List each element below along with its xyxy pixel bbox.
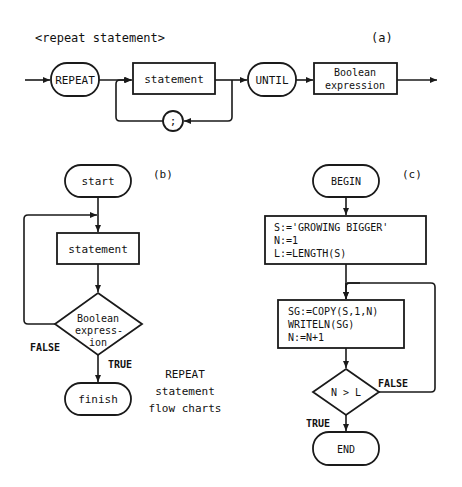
repeat-statement-diagram: <repeat statement> (a) REPEAT statement … — [0, 0, 462, 487]
panel-a-label: (a) — [371, 31, 393, 45]
statement-label: statement — [144, 73, 204, 86]
semicolon-label: ; — [170, 115, 177, 128]
body-line3: N:=N+1 — [288, 332, 324, 343]
false-label: FALSE — [30, 342, 60, 353]
repeat-keyword-node: REPEAT — [51, 63, 99, 96]
body-line2: WRITELN(SG) — [288, 319, 354, 330]
until-keyword-label: UNTIL — [255, 74, 288, 87]
true-label: TRUE — [306, 418, 330, 429]
end-label: END — [337, 444, 355, 455]
init-line2: N:=1 — [274, 235, 298, 246]
start-node: start — [65, 165, 131, 197]
init-line3: L:=LENGTH(S) — [274, 248, 346, 259]
decision-label: N > L — [331, 387, 361, 398]
decision-node: N > L — [313, 369, 379, 415]
statement-node: statement — [57, 233, 139, 264]
statement-label: statement — [68, 243, 128, 256]
panel-b-label: (b) — [153, 168, 173, 181]
panel-c-flowchart: (c) BEGIN S:='GROWING BIGGER' N:=1 L:=LE… — [265, 165, 435, 465]
false-label: FALSE — [378, 378, 408, 389]
caption-line3: flow charts — [149, 402, 222, 415]
statement-node: statement — [133, 63, 215, 94]
true-label: TRUE — [108, 359, 132, 370]
init-line1: S:='GROWING BIGGER' — [274, 222, 388, 233]
finish-label: finish — [78, 393, 118, 406]
end-node: END — [313, 432, 379, 465]
finish-node: finish — [65, 383, 131, 415]
boolean-label-line2: expression — [325, 80, 385, 91]
until-keyword-node: UNTIL — [248, 63, 296, 96]
boolean-expression-node: Boolean expression — [314, 63, 397, 94]
body-node: SG:=COPY(S,1,N) WRITELN(SG) N:=N+1 — [278, 300, 404, 348]
semicolon-node: ; — [163, 111, 183, 131]
boolean-label-line1: Boolean — [334, 67, 376, 78]
panel-b-flowchart: (b) start statement Boolean express- ion… — [24, 165, 173, 415]
panel-a-syntax-diagram: <repeat statement> (a) REPEAT statement … — [25, 31, 437, 131]
begin-label: BEGIN — [331, 176, 361, 187]
panel-c-label: (c) — [402, 168, 422, 181]
decision-line3: ion — [89, 337, 107, 348]
panel-a-title: <repeat statement> — [35, 31, 165, 45]
start-label: start — [81, 175, 114, 188]
decision-node: Boolean express- ion — [55, 293, 142, 355]
caption-line1: REPEAT — [165, 368, 205, 381]
decision-line2: express- — [75, 325, 123, 336]
figure-caption: REPEAT statement flow charts — [149, 368, 222, 415]
decision-line1: Boolean — [77, 313, 119, 324]
caption-line2: statement — [155, 385, 215, 398]
repeat-keyword-label: REPEAT — [55, 74, 95, 87]
init-node: S:='GROWING BIGGER' N:=1 L:=LENGTH(S) — [265, 216, 426, 264]
body-line1: SG:=COPY(S,1,N) — [288, 306, 378, 317]
begin-node: BEGIN — [313, 165, 379, 197]
